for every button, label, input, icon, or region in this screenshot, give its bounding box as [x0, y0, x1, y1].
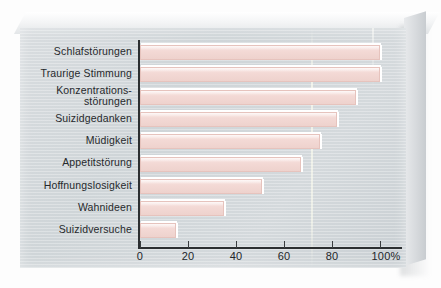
x-axis-tick: [284, 241, 285, 248]
category-label: Konzentrations- störungen: [56, 85, 132, 108]
category-label: Wahnideen: [78, 202, 132, 214]
category-label: Hoffnungslosigkeit: [44, 180, 132, 192]
bar: [140, 45, 380, 60]
x-axis-tick-label: 100%: [372, 250, 401, 262]
scanned-figure-card: SchlafstörungenTraurige StimmungKonzentr…: [0, 0, 441, 288]
x-axis-tick-label: 20: [182, 250, 195, 262]
x-axis-tick: [140, 241, 141, 248]
category-label: Müdigkeit: [86, 135, 132, 147]
bar: [140, 134, 320, 149]
bar: [140, 67, 380, 82]
card-bevel-right: [404, 11, 426, 266]
bar: [140, 157, 301, 172]
category-label: Suizidgedanken: [55, 113, 132, 125]
category-label: Schlafstörungen: [54, 46, 132, 58]
x-axis-tick: [380, 241, 381, 248]
category-label: Appetitstörung: [62, 157, 132, 169]
bar: [140, 201, 224, 216]
x-axis-tick-label: 80: [326, 250, 339, 262]
bar: [140, 179, 262, 194]
x-axis-tick: [188, 241, 189, 248]
x-axis-tick-label: 60: [278, 250, 291, 262]
x-axis-line: [138, 247, 402, 249]
bar: [140, 112, 337, 127]
bar: [140, 90, 356, 105]
category-label: Suizidversuche: [59, 224, 132, 236]
x-axis-tick-label: 40: [230, 250, 243, 262]
category-label: Traurige Stimmung: [41, 68, 132, 80]
bar-chart: SchlafstörungenTraurige StimmungKonzentr…: [20, 28, 406, 268]
x-axis-tick-label: 0: [137, 250, 143, 262]
x-axis-tick: [236, 241, 237, 248]
x-axis-tick: [332, 241, 333, 248]
bar: [140, 223, 176, 238]
